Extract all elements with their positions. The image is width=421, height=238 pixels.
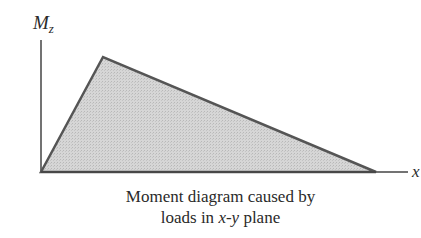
x-axis-label: x — [412, 162, 420, 182]
caption-line-1: Moment diagram caused by — [20, 186, 421, 207]
caption-line-2: loads in x-y plane — [20, 207, 421, 228]
y-axis-label: Mz — [33, 12, 54, 37]
diagram-caption: Moment diagram caused by loads in x-y pl… — [0, 186, 421, 228]
moment-area — [41, 57, 376, 172]
